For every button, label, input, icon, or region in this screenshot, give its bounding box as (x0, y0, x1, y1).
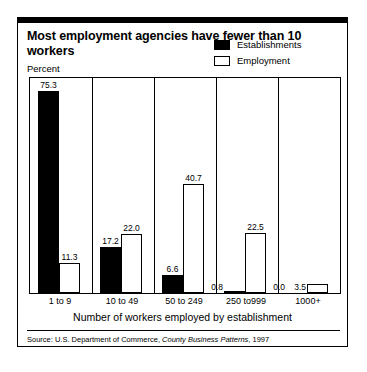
bar-value-label: 17.2 (102, 237, 119, 246)
bar-establishments: 0.8 (224, 291, 245, 293)
category-label: 1 to 9 (29, 296, 91, 306)
group-separator (278, 78, 279, 293)
bar-establishments: 6.6 (162, 275, 183, 293)
source-prefix: Source: U.S. Department of Commerce, (27, 335, 162, 344)
group-separator (216, 78, 217, 293)
legend-item-establishments: Establishments (214, 39, 301, 50)
bar-establishments: 0.0 (286, 292, 307, 293)
source-rule (27, 330, 340, 331)
bar-value-label: 22.0 (123, 224, 140, 233)
chart-legend: Establishments Employment (214, 39, 301, 71)
bar-value-label: 22.5 (247, 223, 264, 232)
bar-value-label: 11.3 (62, 253, 78, 262)
source-publication: County Business Patterns (162, 335, 248, 344)
category-label: 250 to999 (215, 296, 277, 306)
bar-employment: 40.7 (183, 184, 204, 293)
category-label: 1000+ (277, 296, 339, 306)
bar-rect (162, 275, 183, 293)
bar-value-label: 0.8 (211, 283, 223, 292)
legend-item-employment: Employment (214, 55, 301, 66)
bar-value-label: 75.3 (40, 81, 57, 90)
bar-value-label: 40.7 (185, 174, 202, 183)
x-axis-label: Number of workers employed by establishm… (18, 311, 347, 323)
legend-label-employment: Employment (237, 55, 290, 66)
category-label: 10 to 49 (91, 296, 153, 306)
bar-value-label: 0.0 (273, 283, 285, 292)
bar-establishments: 17.2 (100, 247, 121, 293)
group-separator (92, 78, 93, 293)
title-rule (18, 18, 347, 23)
bar-employment: 11.3 (59, 263, 80, 293)
chart-figure: Most employment agencies have fewer than… (17, 17, 348, 347)
legend-swatch-establishments (214, 40, 230, 50)
bar-rect (245, 233, 266, 293)
y-axis-label: Percent (27, 63, 60, 74)
bar-rect (59, 263, 80, 293)
bar-rect (183, 184, 204, 293)
plot-inner: 75.311.317.222.06.640.70.822.50.03.5 (30, 78, 340, 293)
plot-area: 75.311.317.222.06.640.70.822.50.03.5 (29, 77, 341, 294)
bar-employment: 3.5 (307, 284, 328, 293)
legend-swatch-employment (214, 56, 230, 66)
group-separator (154, 78, 155, 293)
category-label: 50 to 249 (153, 296, 215, 306)
bar-rect (100, 247, 121, 293)
source-note: Source: U.S. Department of Commerce, Cou… (27, 335, 269, 344)
bar-rect (224, 291, 245, 293)
legend-label-establishments: Establishments (237, 39, 301, 50)
category-axis: 1 to 910 to 4950 to 249250 to9991000+ (29, 296, 341, 310)
bar-value-label: 3.5 (294, 283, 306, 292)
bar-employment: 22.5 (245, 233, 266, 293)
source-suffix: , 1997 (248, 335, 269, 344)
bar-rect (307, 284, 328, 293)
bar-value-label: 6.6 (167, 265, 179, 274)
bar-employment: 22.0 (121, 234, 142, 293)
bar-rect (121, 234, 142, 293)
bar-establishments: 75.3 (38, 91, 59, 293)
bar-rect (38, 91, 59, 293)
